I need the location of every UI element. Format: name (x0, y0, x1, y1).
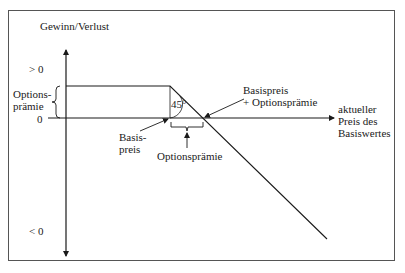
bracket-left-label: Options- prämie (13, 88, 52, 112)
payoff-line (66, 86, 327, 239)
x-axis-label: aktueller Preis des Basiswertes (338, 103, 391, 139)
tick-negative: < 0 (29, 225, 43, 237)
strike-pointer (140, 119, 168, 131)
bottom-brace (171, 122, 203, 131)
tick-zero: 0 (37, 113, 43, 125)
breakeven-pointer (205, 99, 244, 117)
tick-positive: > 0 (29, 63, 43, 75)
strike-label: Basis- preis (119, 131, 147, 155)
premium-bottom-label: Optionsprämie (157, 150, 222, 162)
angle-label: 45° (171, 98, 186, 110)
y-axis-label: Gewinn/Verlust (40, 20, 109, 32)
breakeven-label: Basispreis + Optionsprämie (243, 84, 317, 108)
left-brace (52, 86, 60, 118)
